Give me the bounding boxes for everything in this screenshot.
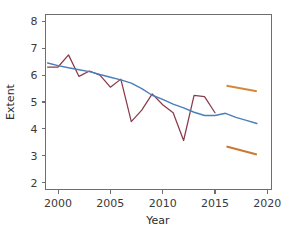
chart-container: 2345678 20002005201020152020 Year Extent	[0, 0, 292, 234]
y-tick-label: 2	[31, 177, 38, 190]
y-tick-label: 5	[31, 96, 38, 109]
y-tick-label: 4	[31, 123, 38, 136]
x-tick-label: 2015	[201, 197, 229, 210]
x-axis-title: Year	[145, 214, 170, 227]
y-tick-label: 3	[31, 150, 38, 163]
y-axis-title: Extent	[4, 83, 17, 120]
x-tick-label: 2005	[96, 197, 124, 210]
x-tick-label: 2000	[44, 197, 72, 210]
x-tick-label: 2020	[253, 197, 281, 210]
y-tick-label: 6	[31, 69, 38, 82]
y-tick-label: 7	[31, 42, 38, 55]
x-tick-label: 2010	[149, 197, 177, 210]
line-chart: 2345678 20002005201020152020 Year Extent	[0, 0, 292, 234]
y-tick-label: 8	[31, 15, 38, 28]
